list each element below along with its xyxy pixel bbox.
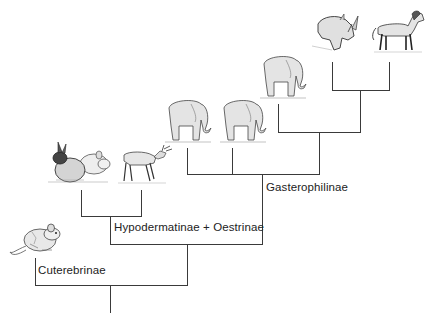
horse-icon <box>370 8 426 56</box>
branch-hypodermatinae-oestrinae <box>110 216 111 245</box>
branch-rhinoceros <box>332 62 333 91</box>
deer-icon <box>116 145 176 187</box>
elephant-icon <box>260 52 310 102</box>
branch-elephant-2 <box>232 148 233 175</box>
rabbit-icon <box>44 142 112 186</box>
branch-deer <box>141 190 142 217</box>
branch-elephant-3 <box>278 104 279 133</box>
node-hypodermatinae-oestrinae <box>81 216 142 217</box>
clade-label-cuterebrinae: Cuterebrinae <box>38 264 106 276</box>
root-branch <box>110 285 111 313</box>
branch-upper <box>319 132 320 175</box>
node-gasterophilinae <box>187 174 320 175</box>
branch-perissodactyl <box>360 90 361 133</box>
node-perissodactyl <box>332 90 390 91</box>
branch-gasterophilinae <box>262 174 263 245</box>
clade-label-hypodermatinae-oestrinae: Hypodermatinae + Oestrinae <box>114 221 264 233</box>
clade-label-gasterophilinae: Gasterophilinae <box>266 181 348 193</box>
node-upper <box>278 132 361 133</box>
node-root <box>35 285 188 286</box>
elephant-icon <box>165 96 215 146</box>
elephant-icon <box>220 96 270 146</box>
branch-remaining <box>187 244 188 286</box>
cladogram-diagram: Cuterebrinae Hypodermatinae + Oestrinae … <box>0 0 433 318</box>
branch-elephant-1 <box>187 148 188 175</box>
branch-horse <box>389 62 390 91</box>
rhinoceros-icon <box>312 10 362 60</box>
branch-cuterebrinae <box>35 258 36 286</box>
node-oestrid-gasterophilid <box>110 244 263 245</box>
branch-rabbit <box>81 190 82 217</box>
rodent-icon <box>8 222 66 258</box>
